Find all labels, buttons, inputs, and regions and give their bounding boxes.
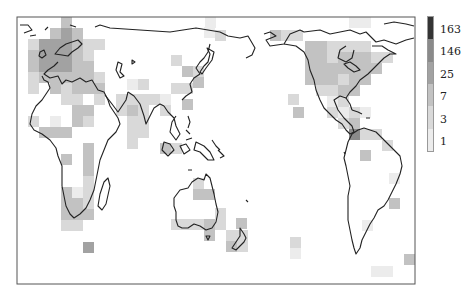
grid-cell <box>50 28 61 39</box>
grid-cell <box>316 41 327 52</box>
grid-cell <box>316 52 327 63</box>
coast-galapagos <box>344 152 345 154</box>
grid-cell <box>338 74 349 85</box>
grid-cell <box>83 116 94 127</box>
grid-cell <box>371 63 382 74</box>
grid-cell <box>327 85 338 96</box>
grid-cell <box>72 50 83 61</box>
grid-cell <box>83 61 94 72</box>
grid-cell <box>61 83 72 94</box>
grid-cell <box>72 105 83 116</box>
legend-label-146: 146 <box>440 46 461 57</box>
grid-cell <box>160 105 171 116</box>
grid-cell <box>193 77 204 88</box>
grid-cell <box>83 50 94 61</box>
grid-cell <box>360 129 371 140</box>
grid-cell <box>371 266 382 277</box>
grid-cell <box>360 150 371 161</box>
grid-cell <box>360 17 371 28</box>
grid-cell <box>61 154 72 165</box>
coast-aral <box>132 60 135 64</box>
grid-cell <box>83 83 94 94</box>
coast-greenland <box>384 22 414 26</box>
grid-cell <box>83 143 94 154</box>
grid-cell <box>360 41 371 52</box>
legend-label-25: 25 <box>440 69 454 80</box>
grid-cell <box>193 189 204 200</box>
grid-cell <box>205 17 216 28</box>
grid-cell <box>61 94 72 105</box>
grid-cell <box>338 85 349 96</box>
grid-cell <box>305 41 316 52</box>
grid-cell <box>72 187 83 198</box>
grid-cell <box>160 143 171 154</box>
legend-label-163: 163 <box>440 24 461 35</box>
grid-cell <box>182 99 193 110</box>
grid-cell <box>28 72 39 83</box>
grid-cell <box>72 116 83 127</box>
grid-cell <box>182 66 193 77</box>
colorbar-frame <box>427 16 434 152</box>
grid-cell <box>338 63 349 74</box>
grid-cell <box>204 27 215 38</box>
grid-cell <box>50 116 61 127</box>
grid-cell <box>127 127 138 138</box>
grid-cell <box>127 79 138 90</box>
legend-label-7: 7 <box>440 91 447 102</box>
grid-cell <box>83 39 94 50</box>
grid-cell <box>292 30 303 41</box>
grid-cell <box>28 39 39 50</box>
grid-cell <box>72 61 83 72</box>
grid-cell <box>50 61 61 72</box>
grid-cell <box>327 52 338 63</box>
grid-cell <box>83 105 94 116</box>
grid-cell <box>61 61 72 72</box>
grid-cell <box>327 63 338 74</box>
grid-cell <box>226 230 237 241</box>
grid-cell <box>349 129 360 140</box>
grid-cell <box>127 105 138 116</box>
grid-cell <box>72 28 83 39</box>
grid-cell <box>382 140 393 151</box>
grid-cell <box>28 116 39 127</box>
grid-cell <box>327 74 338 85</box>
grid-cell <box>127 138 138 149</box>
grid-cell <box>72 198 83 209</box>
coast-madagascar <box>98 178 110 210</box>
grid-cell <box>288 94 299 105</box>
world-grid-map <box>0 0 475 298</box>
grid-cell <box>236 218 247 229</box>
grid-cell <box>83 187 94 198</box>
grid-cell <box>349 41 360 52</box>
grid-cell <box>50 127 61 138</box>
grid-cell <box>28 50 39 61</box>
grid-cell <box>171 55 182 66</box>
grid-cells <box>28 17 415 277</box>
grid-cell <box>349 118 360 129</box>
grid-cell <box>61 39 72 50</box>
grid-cell <box>389 198 400 209</box>
grid-cell <box>171 83 182 94</box>
grid-cell <box>349 85 360 96</box>
grid-cell <box>61 28 72 39</box>
grid-cell <box>316 63 327 74</box>
grid-cell <box>61 127 72 138</box>
grid-cell <box>83 165 94 176</box>
coast-philippines <box>186 116 190 134</box>
grid-cell <box>237 241 248 252</box>
grid-cell <box>72 220 83 231</box>
grid-cell <box>72 94 83 105</box>
grid-cell <box>83 209 94 220</box>
grid-cell <box>149 94 160 105</box>
grid-cell <box>72 83 83 94</box>
grid-cell <box>83 176 94 187</box>
grid-cell <box>338 118 349 129</box>
grid-cell <box>39 39 50 50</box>
grid-cell <box>382 266 393 277</box>
grid-cell <box>94 39 105 50</box>
grid-cell <box>360 107 371 118</box>
coast-south-america <box>344 128 402 254</box>
coast-new-caledonia <box>246 200 248 202</box>
grid-cell <box>83 242 94 253</box>
grid-cell <box>50 83 61 94</box>
